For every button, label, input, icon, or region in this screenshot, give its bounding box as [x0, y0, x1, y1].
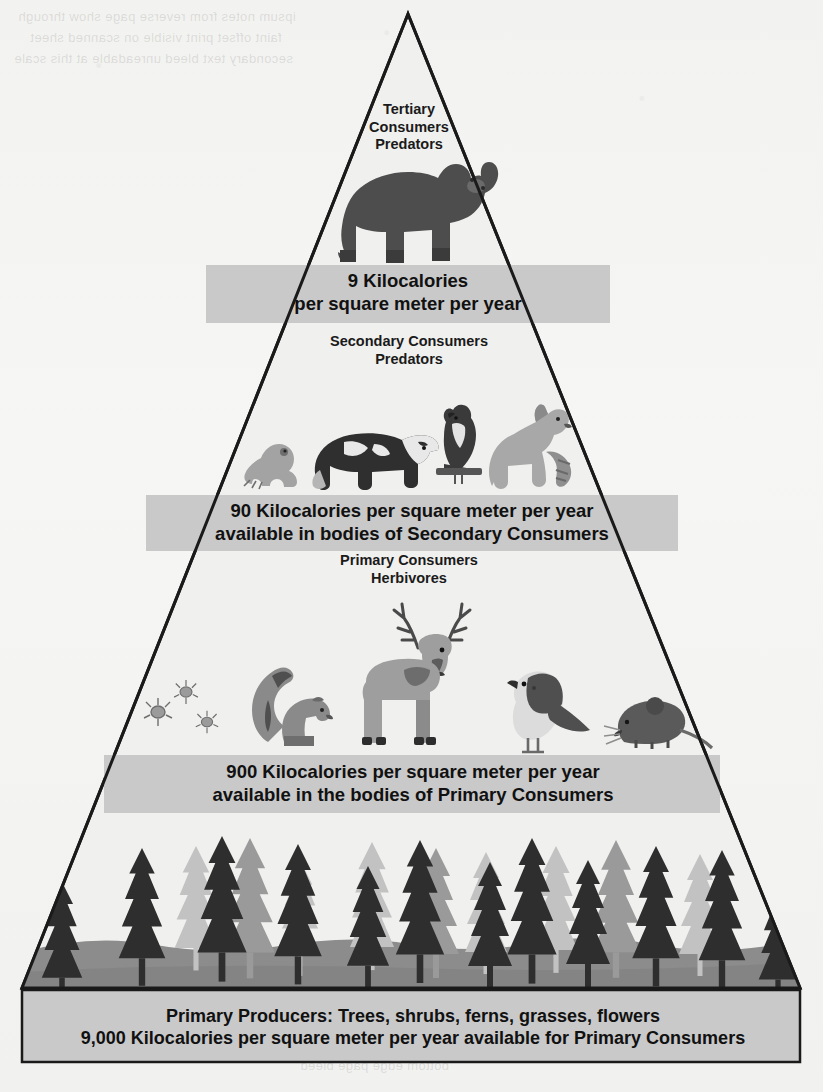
energy-band-tertiary	[206, 265, 610, 323]
pyramid-diagram	[0, 0, 823, 1092]
tier-label-primary: Primary Consumers Herbivores	[259, 552, 559, 587]
energy-band-producers	[22, 990, 800, 1062]
tier-label-tertiary: Tertiary Consumers Predators	[309, 101, 509, 154]
energy-band-primary	[104, 755, 720, 813]
energy-band-secondary	[146, 495, 678, 551]
energy-pyramid-page: ipsum notes from reverse page show throu…	[0, 0, 823, 1092]
tier-label-secondary: Secondary Consumers Predators	[259, 333, 559, 368]
